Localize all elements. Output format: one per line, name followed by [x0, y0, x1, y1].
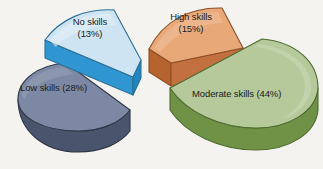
pie-chart-canvas	[0, 0, 323, 169]
pie-chart-figure: No skills (13%) Low skills (28%) High sk…	[0, 0, 323, 169]
